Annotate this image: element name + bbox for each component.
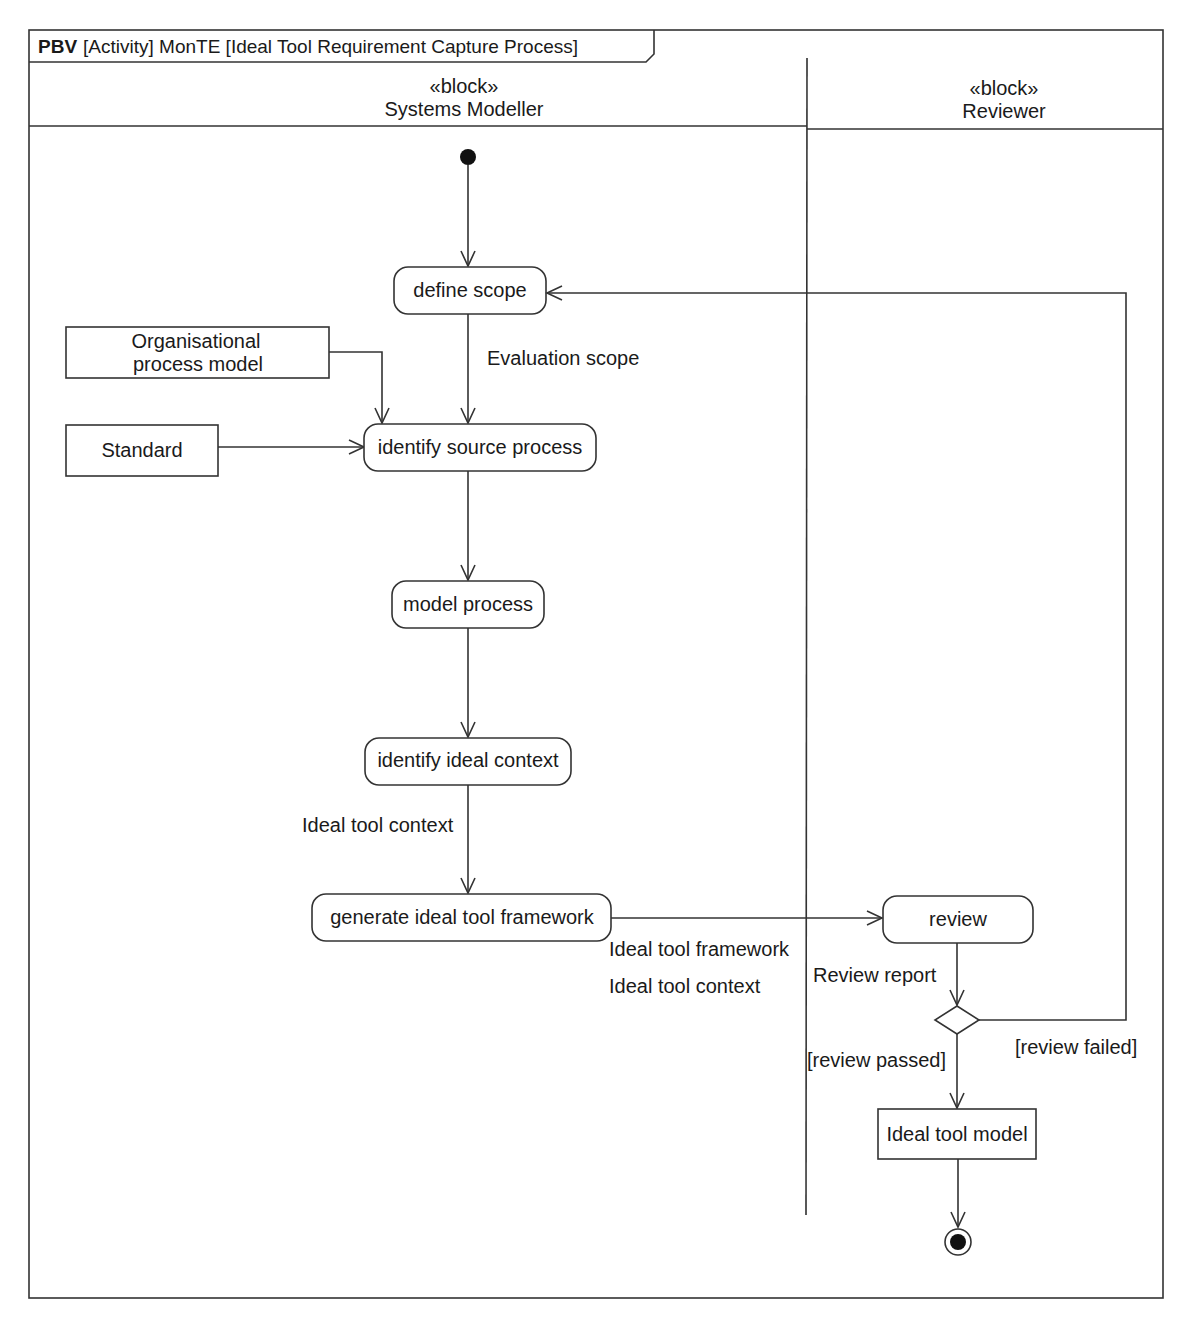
lane-divider [806, 58, 807, 1215]
lane-1-name: Systems Modeller [385, 98, 544, 120]
final-node-icon [945, 1229, 971, 1255]
svg-text:Standard: Standard [101, 439, 182, 461]
object-standard[interactable]: Standard [66, 425, 218, 476]
frame-heading: PBV[Activity] MonTE [Ideal Tool Requirem… [38, 36, 578, 57]
action-model-process[interactable]: model process [392, 581, 544, 628]
svg-text:identify ideal context: identify ideal context [377, 749, 559, 771]
frame-title: [Activity] MonTE [Ideal Tool Requirement… [83, 36, 578, 57]
svg-text:Ideal tool model: Ideal tool model [886, 1123, 1027, 1145]
flow-label-ideal-tool-context: Ideal tool context [302, 814, 454, 836]
flow-label-review-report: Review report [813, 964, 937, 986]
svg-text:generate ideal tool framework: generate ideal tool framework [330, 906, 594, 928]
flow-label-evaluation-scope: Evaluation scope [487, 347, 639, 369]
activity-diagram: PBV[Activity] MonTE [Ideal Tool Requirem… [0, 0, 1180, 1317]
svg-text:identify source process: identify source process [378, 436, 583, 458]
action-generate-ideal-tool-framework[interactable]: generate ideal tool framework [312, 894, 611, 941]
svg-text:Organisational: Organisational [132, 330, 261, 352]
decision-node-icon [935, 1006, 979, 1034]
flow-label-ideal-tool-framework: Ideal tool framework [609, 938, 790, 960]
lane-2-stereotype: «block» [970, 77, 1039, 99]
frame-keyword: PBV [38, 36, 77, 57]
guard-review-passed: [review passed] [807, 1049, 946, 1071]
action-define-scope[interactable]: define scope [394, 267, 546, 314]
action-identify-source-process[interactable]: identify source process [364, 424, 596, 471]
flow-review-failed-to-define-scope [547, 293, 1126, 1020]
guard-review-failed: [review failed] [1015, 1036, 1137, 1058]
lane-2-name: Reviewer [962, 100, 1046, 122]
lane-1-stereotype: «block» [430, 75, 499, 97]
flow-org-model-to-identify-source [329, 352, 382, 423]
svg-text:review: review [929, 908, 987, 930]
object-organisational-process-model[interactable]: Organisational process model [66, 327, 329, 378]
svg-text:process model: process model [133, 353, 263, 375]
action-identify-ideal-context[interactable]: identify ideal context [365, 738, 571, 785]
initial-node-icon [460, 149, 476, 165]
svg-text:model process: model process [403, 593, 533, 615]
object-ideal-tool-model[interactable]: Ideal tool model [878, 1109, 1036, 1159]
flow-label-ideal-tool-context-2: Ideal tool context [609, 975, 761, 997]
diagram-frame [29, 30, 1163, 1298]
action-review[interactable]: review [883, 896, 1033, 943]
action-label: define scope [413, 279, 526, 301]
